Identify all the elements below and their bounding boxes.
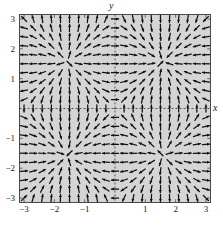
- y-tick-label: −1: [5, 134, 15, 143]
- x-tick-label: −1: [80, 205, 90, 214]
- y-tick-label: 3: [11, 14, 16, 23]
- y-tick-label: −2: [5, 164, 15, 173]
- x-tick-label: 3: [204, 205, 209, 214]
- vector-field-figure: y x −3−2−1123 321−1−2−3: [0, 0, 223, 229]
- x-tick-label: −2: [50, 205, 60, 214]
- y-tick-label: −3: [5, 194, 15, 203]
- x-axis-label: x: [213, 103, 217, 113]
- x-tick-label: −3: [19, 205, 29, 214]
- y-axis-label: y: [109, 1, 113, 11]
- plot-canvas: [0, 0, 223, 229]
- x-tick-label: 1: [143, 205, 148, 214]
- x-tick-label: 2: [173, 205, 178, 214]
- y-tick-label: 1: [11, 74, 16, 83]
- y-tick-label: 2: [11, 44, 16, 53]
